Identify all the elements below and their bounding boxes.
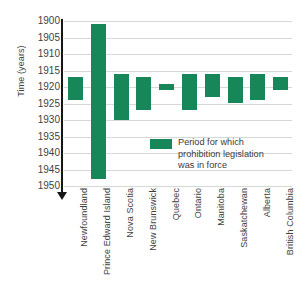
x-tick-label-ontario: Ontario bbox=[193, 188, 203, 218]
x-axis-tick-labels: NewfoundlandPrince Edward IslandNova Sco… bbox=[64, 188, 292, 285]
legend-label-line-2: prohibition legislation bbox=[178, 149, 296, 161]
bar-manitoba bbox=[205, 74, 220, 97]
legend-label-line-3: was in force bbox=[178, 160, 296, 172]
bar-quebec bbox=[159, 84, 174, 91]
x-tick-label-newfoundland: Newfoundland bbox=[79, 188, 89, 247]
bar-alberta bbox=[250, 74, 265, 100]
legend-label: Period for which prohibition legislation… bbox=[178, 137, 296, 172]
bar-ontario bbox=[182, 74, 197, 110]
legend-label-line-1: Period for which bbox=[178, 137, 296, 149]
x-tick-label-new-brunswick: New Brunswick bbox=[148, 188, 158, 251]
y-tick-label-1915: 1915 bbox=[24, 66, 60, 76]
prohibition-legislation-chart: Time (years) 190019051910191519201925193… bbox=[0, 0, 298, 285]
x-tick-label-british-columbia: British Columbia bbox=[285, 188, 295, 255]
y-tick-label-1905: 1905 bbox=[24, 33, 60, 43]
chart-legend: Period for which prohibition legislation… bbox=[150, 137, 296, 172]
bar-newfoundland bbox=[68, 77, 83, 100]
x-tick-label-nova-scotia: Nova Scotia bbox=[125, 188, 135, 238]
x-tick-label-manitoba: Manitoba bbox=[216, 188, 226, 226]
x-tick-label-alberta: Alberta bbox=[262, 188, 272, 217]
gridline-1900 bbox=[64, 21, 292, 22]
y-tick-label-1935: 1935 bbox=[24, 132, 60, 142]
bar-new-brunswick bbox=[136, 77, 151, 110]
y-axis-tick-labels: 1900190519101915192019251930193519401945… bbox=[20, 21, 60, 186]
x-tick-label-saskatchewan: Saskatchewan bbox=[239, 188, 249, 248]
y-tick-label-1910: 1910 bbox=[24, 49, 60, 59]
y-tick-label-1940: 1940 bbox=[24, 148, 60, 158]
x-tick-label-quebec: Quebec bbox=[171, 188, 181, 220]
y-tick-label-1930: 1930 bbox=[24, 115, 60, 125]
y-tick-label-1925: 1925 bbox=[24, 99, 60, 109]
x-tick-label-prince-edward-island: Prince Edward Island bbox=[102, 188, 112, 275]
y-tick-label-1945: 1945 bbox=[24, 165, 60, 175]
y-tick-label-1920: 1920 bbox=[24, 82, 60, 92]
gridline-1950 bbox=[64, 186, 292, 187]
bar-saskatchewan bbox=[228, 77, 243, 103]
y-tick-label-1950: 1950 bbox=[24, 181, 60, 191]
y-tick-label-1900: 1900 bbox=[24, 16, 60, 26]
legend-swatch-prohibition bbox=[150, 139, 172, 149]
bar-nova-scotia bbox=[114, 74, 129, 120]
y-axis-line bbox=[61, 19, 63, 194]
bar-british-columbia bbox=[273, 77, 288, 90]
bar-prince-edward-island bbox=[91, 24, 106, 179]
